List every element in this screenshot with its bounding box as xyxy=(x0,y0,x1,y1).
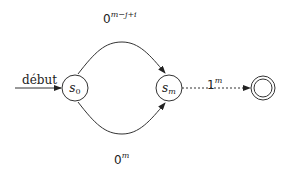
transition-bottom xyxy=(78,102,165,134)
transition-label-dotted: 1m xyxy=(207,77,222,91)
transition-label-top: 0m−j+i xyxy=(103,11,137,25)
transition-top xyxy=(78,42,165,74)
start-label: début xyxy=(22,74,57,86)
state-label-sm: sm xyxy=(156,75,182,105)
accepting-state-outer xyxy=(251,76,275,100)
state-label-s0: s0 xyxy=(62,75,88,105)
automaton-diagram: début s0 sm 0m−j+i 0m 1m xyxy=(0,0,291,172)
transition-label-bottom: 0m xyxy=(114,152,129,166)
